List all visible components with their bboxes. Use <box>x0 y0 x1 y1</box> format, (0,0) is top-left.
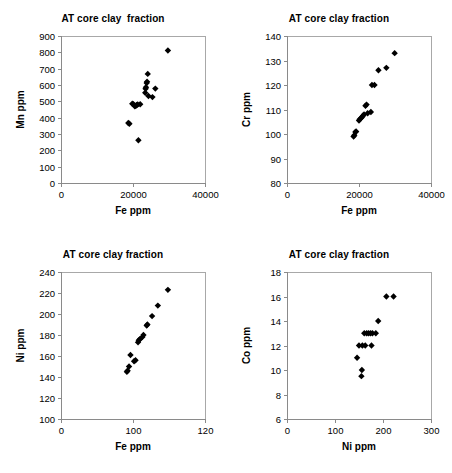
y-tick-label: 120 <box>265 80 281 91</box>
y-tick-label: 180 <box>39 330 55 341</box>
data-point <box>383 65 389 71</box>
chart-panel-co-vs-ni: AT core clay fraction 681012141618010020… <box>226 236 452 472</box>
y-axis-title: Cr ppm <box>241 92 252 127</box>
x-axis-title: Ni ppm <box>342 441 376 452</box>
y-tick-label: 130 <box>265 56 281 67</box>
y-axis-title: Co ppm <box>241 327 252 364</box>
x-tick-label: 20000 <box>346 189 372 200</box>
y-tick-label: 6 <box>276 414 281 425</box>
y-tick-label: 140 <box>39 372 55 383</box>
x-axis-title: Fe ppm <box>115 205 151 216</box>
y-tick-label: 200 <box>39 309 55 320</box>
y-tick-label: 8 <box>276 390 281 401</box>
plot-frame <box>288 37 432 184</box>
y-tick-label: 160 <box>39 351 55 362</box>
x-axis-title: Fe ppm <box>115 441 151 452</box>
y-tick-label: 16 <box>270 292 281 303</box>
y-tick-label: 14 <box>270 316 281 327</box>
y-tick-label: 400 <box>39 113 55 124</box>
y-tick-label: 110 <box>266 105 281 116</box>
chart-panel-mn-vs-fe: AT core clay fraction 010020030040050060… <box>0 0 226 236</box>
data-point-group <box>350 50 397 140</box>
scatter-plot-ni-vs-fe: 1001201401601802002202400100120Fe ppmNi … <box>0 236 226 472</box>
y-tick-label: 900 <box>39 31 55 42</box>
y-tick-label: 100 <box>265 129 281 140</box>
y-tick-label: 700 <box>39 64 55 75</box>
data-point-group <box>125 47 171 143</box>
y-tick-label: 100 <box>39 414 55 425</box>
y-tick-label: 90 <box>270 154 281 165</box>
y-tick-label: 200 <box>39 145 55 156</box>
data-point <box>373 330 379 336</box>
x-tick-label: 120 <box>198 425 214 436</box>
y-tick-label: 120 <box>39 393 55 404</box>
y-tick-label: 100 <box>39 162 55 173</box>
y-tick-label: 600 <box>39 80 55 91</box>
data-point <box>358 373 364 379</box>
data-point <box>375 318 381 324</box>
data-point <box>149 313 155 319</box>
y-tick-label: 300 <box>39 129 55 140</box>
x-tick-label: 100 <box>126 425 142 436</box>
chart-panel-ni-vs-fe: AT core clay fraction 100120140160180200… <box>0 236 226 472</box>
data-point-group <box>354 293 397 379</box>
chart-panel-cr-vs-fe: AT core clay fraction 809010011012013014… <box>226 0 452 236</box>
y-tick-label: 18 <box>270 267 281 278</box>
x-tick-label: 40000 <box>418 189 444 200</box>
y-tick-label: 800 <box>39 47 55 58</box>
x-tick-label: 0 <box>285 189 290 200</box>
x-tick-label: 20000 <box>120 189 146 200</box>
y-tick-label: 220 <box>39 288 55 299</box>
data-point <box>127 352 133 358</box>
y-tick-label: 10 <box>270 365 281 376</box>
data-point <box>155 302 161 308</box>
x-tick-label: 0 <box>59 425 64 436</box>
y-tick-label: 240 <box>39 267 55 278</box>
y-tick-label: 80 <box>270 178 281 189</box>
scatter-plot-cr-vs-fe: 809010011012013014002000040000Fe ppmCr p… <box>226 0 452 236</box>
x-tick-label: 40000 <box>192 189 218 200</box>
data-point <box>165 47 171 53</box>
x-tick-label: 200 <box>376 425 392 436</box>
data-point <box>165 287 171 293</box>
y-axis-title: Mn ppm <box>15 90 26 128</box>
y-axis-title: Ni ppm <box>15 328 26 362</box>
x-axis-title: Fe ppm <box>341 205 377 216</box>
data-point <box>359 367 365 373</box>
scatter-plot-co-vs-ni: 6810121416180100200300Ni ppmCo ppm <box>226 236 452 472</box>
x-tick-label: 100 <box>328 425 344 436</box>
y-tick-label: 0 <box>50 178 55 189</box>
scatter-plot-mn-vs-fe: 010020030040050060070080090002000040000F… <box>0 0 226 236</box>
data-point <box>390 293 396 299</box>
data-point <box>375 67 381 73</box>
x-tick-label: 300 <box>424 425 440 436</box>
figure-canvas: AT core clay fraction 010020030040050060… <box>0 0 452 473</box>
y-tick-label: 12 <box>270 341 281 352</box>
data-point <box>135 137 141 143</box>
data-point <box>383 293 389 299</box>
plot-frame <box>62 37 206 184</box>
plot-frame <box>62 273 206 420</box>
data-point <box>368 342 374 348</box>
data-point <box>152 85 158 91</box>
data-point <box>145 71 151 77</box>
x-tick-label: 0 <box>59 189 64 200</box>
data-point <box>354 355 360 361</box>
data-point <box>391 50 397 56</box>
x-tick-label: 0 <box>285 425 290 436</box>
y-tick-label: 500 <box>39 96 55 107</box>
y-tick-label: 140 <box>265 31 281 42</box>
data-point-group <box>124 287 171 375</box>
